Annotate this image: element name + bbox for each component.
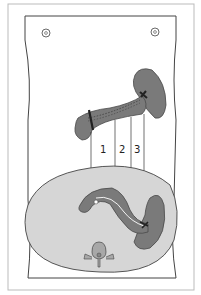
label-2: 2 (119, 144, 125, 155)
vessel-circle (94, 200, 98, 204)
label-3: 3 (134, 144, 140, 155)
anatomy-diagram: 1 2 3 (0, 0, 201, 295)
label-1: 1 (100, 144, 106, 155)
